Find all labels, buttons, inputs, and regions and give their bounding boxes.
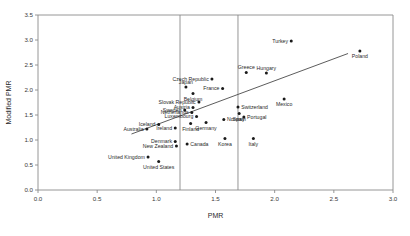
data-point-label: Turkey xyxy=(272,38,288,44)
data-point-marker xyxy=(265,72,268,75)
data-point-label: United Kingdom xyxy=(108,154,145,160)
x-tick-label: 3.0 xyxy=(389,195,398,202)
y-tick-label: 1.0 xyxy=(24,136,33,143)
data-point-marker xyxy=(174,127,177,130)
data-point-label: Poland xyxy=(352,53,368,59)
y-axis-ticks: 0.00.51.01.52.02.53.03.5 xyxy=(24,11,38,193)
data-point-marker xyxy=(221,87,224,90)
data-point-label: Mexico xyxy=(276,101,293,107)
data-point-marker xyxy=(222,118,225,121)
data-point-label: Greece xyxy=(238,64,255,70)
data-point-marker xyxy=(184,86,187,89)
data-point-label: United States xyxy=(143,164,175,170)
x-tick-label: 2.5 xyxy=(330,195,339,202)
x-axis-title: PMR xyxy=(208,212,224,219)
data-point-label: Luxembourg xyxy=(165,113,194,119)
data-point-label: Ireland xyxy=(156,125,172,131)
data-point-label: Hungary xyxy=(257,65,277,71)
data-point-marker xyxy=(174,140,177,143)
x-tick-label: 1.0 xyxy=(152,195,161,202)
data-point-label: Japan xyxy=(179,79,193,85)
data-point-marker xyxy=(197,101,200,104)
y-tick-label: 2.0 xyxy=(24,86,33,93)
data-point-label: Italy xyxy=(249,141,259,147)
data-point-label: Norway xyxy=(227,116,245,122)
y-tick-label: 3.5 xyxy=(24,11,33,18)
x-tick-label: 0.5 xyxy=(93,195,102,202)
y-tick-label: 3.0 xyxy=(24,36,33,43)
data-point-label: Switzerland xyxy=(241,104,268,110)
data-point-marker xyxy=(210,78,213,81)
data-point-marker xyxy=(175,145,178,148)
data-point-marker xyxy=(145,128,148,131)
plot-canvas: 0.00.51.01.52.02.53.0 0.00.51.01.52.02.5… xyxy=(0,0,410,236)
y-tick-label: 2.5 xyxy=(24,61,33,68)
y-tick-label: 0.0 xyxy=(24,186,33,193)
y-tick-label: 0.5 xyxy=(24,161,33,168)
data-point-marker xyxy=(192,106,195,109)
data-point-marker xyxy=(236,106,239,109)
data-point-marker xyxy=(290,40,293,43)
data-point-label: Australia xyxy=(123,126,143,132)
data-point-label: Canada xyxy=(190,141,208,147)
data-point-marker xyxy=(186,143,189,146)
x-tick-label: 1.5 xyxy=(211,195,220,202)
x-axis-ticks: 0.00.51.01.52.02.53.0 xyxy=(34,190,398,202)
x-tick-label: 2.0 xyxy=(270,195,279,202)
data-point-label: New Zealand xyxy=(143,143,174,149)
y-tick-label: 1.5 xyxy=(24,111,33,118)
y-axis-title: Modified PMR xyxy=(5,81,12,125)
data-point-marker xyxy=(147,156,150,159)
x-tick-label: 0.0 xyxy=(34,195,43,202)
data-point-marker xyxy=(195,115,198,118)
data-point-label: France xyxy=(203,85,219,91)
data-point-label: Finland xyxy=(182,126,199,132)
scatter-plot-figure: 0.00.51.01.52.02.53.0 0.00.51.01.52.02.5… xyxy=(0,0,410,236)
data-point-label: Portugal xyxy=(247,114,266,120)
data-point-label: Korea xyxy=(218,141,232,147)
data-point-marker xyxy=(245,71,248,74)
